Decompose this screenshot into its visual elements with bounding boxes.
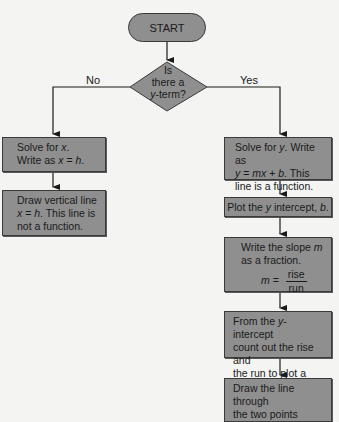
yes-step-count-rise-run: From the y-intercept count out the rise … <box>224 311 332 358</box>
decision-text: Is there a y-term? <box>130 64 206 100</box>
decision-line-1: Is <box>130 64 206 76</box>
start-terminator: START <box>128 13 206 42</box>
start-label: START <box>149 22 184 34</box>
yes-step-solve-y: Solve for y. Write as y = mx + b. This l… <box>224 137 332 180</box>
edge-label-yes: Yes <box>240 74 258 86</box>
yes-step-write-slope: Write the slope m as a fraction. m = ris… <box>224 237 332 292</box>
no-step-solve-x: Solve for x. Write as x = h. <box>2 137 106 172</box>
decision-line-2: there a <box>130 76 206 88</box>
no-step-draw-vertical: Draw vertical line x = h. This line is n… <box>2 190 106 236</box>
yes-step-draw-line: Draw the line through the two points <box>224 378 332 422</box>
slope-fraction: rise run <box>286 268 307 295</box>
decision-line-3: y-term? <box>130 88 206 100</box>
edge-label-no: No <box>86 74 100 86</box>
yes-step-plot-intercept: Plot the y intercept, b. <box>224 197 332 217</box>
